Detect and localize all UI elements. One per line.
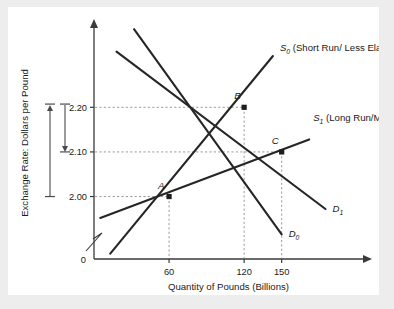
- figure-panel: 2.002.102.20601201500ABCD0D1S0 (Short Ru…: [8, 7, 379, 295]
- y-tick-label-2.10: 2.10: [69, 147, 87, 157]
- y-tick-label-2.20: 2.20: [69, 103, 87, 113]
- curve-S1: [100, 139, 309, 218]
- curve-label-S0: S0 (Short Run/ Less Elastic): [280, 42, 379, 55]
- origin-label: 0: [81, 255, 86, 265]
- annotation-fall-arrowhead: [62, 146, 68, 152]
- x-axis-arrowhead: [363, 255, 372, 263]
- data-point-A: [166, 194, 171, 199]
- point-label-B: B: [234, 90, 241, 101]
- annotation-rise-arrowhead: [47, 105, 53, 111]
- curve-label-S1: S1 (Long Run/More Elastic): [313, 112, 379, 125]
- y-axis-arrowhead: [90, 19, 98, 28]
- data-point-C: [279, 149, 284, 154]
- curve-S0: [110, 56, 273, 254]
- curve-D1: [117, 52, 326, 209]
- screenshot-root: 2.002.102.20601201500ABCD0D1S0 (Short Ru…: [0, 0, 394, 309]
- data-point-B: [242, 105, 247, 110]
- supply-demand-chart: 2.002.102.20601201500ABCD0D1S0 (Short Ru…: [8, 7, 379, 295]
- point-label-A: A: [157, 180, 165, 191]
- x-axis-title: Quantity of Pounds (Billions): [168, 281, 289, 292]
- curve-label-D0: D0: [289, 228, 300, 241]
- x-tick-label-120: 120: [236, 267, 252, 277]
- curve-label-D1: D1: [332, 203, 343, 216]
- y-axis-title: Exchange Rate: Dollars per Pound: [19, 69, 30, 217]
- chart-svg: 2.002.102.20601201500ABCD0D1S0 (Short Ru…: [8, 7, 379, 295]
- curve-D0: [134, 29, 282, 234]
- x-tick-label-150: 150: [274, 267, 290, 277]
- y-tick-label-2.00: 2.00: [69, 192, 87, 202]
- point-label-C: C: [272, 135, 280, 146]
- x-tick-label-60: 60: [164, 267, 174, 277]
